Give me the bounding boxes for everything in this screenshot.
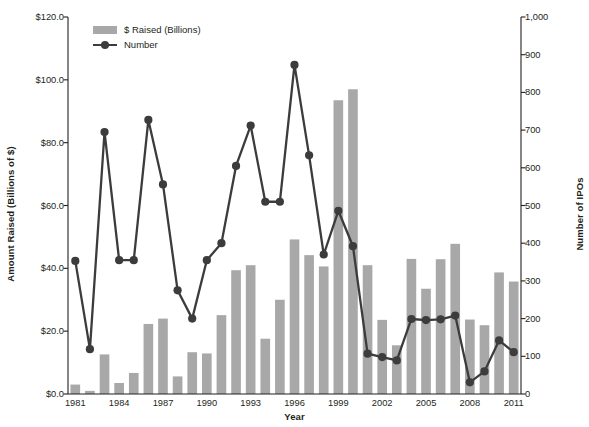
line-point-2008 — [466, 378, 474, 386]
line-point-1993 — [247, 121, 255, 129]
bar-1994 — [260, 339, 270, 394]
line-point-2002 — [378, 353, 386, 361]
bar-1992 — [231, 270, 241, 394]
bar-1996 — [290, 239, 300, 394]
line-point-2004 — [407, 315, 415, 323]
line-point-2005 — [422, 316, 430, 324]
line-point-1997 — [305, 151, 313, 159]
bar-1989 — [187, 352, 197, 394]
line-point-1987 — [159, 180, 167, 188]
line-point-2010 — [495, 336, 503, 344]
line-point-1983 — [100, 128, 108, 136]
line-point-1992 — [232, 162, 240, 170]
line-point-1986 — [144, 116, 152, 124]
line-point-1984 — [115, 256, 123, 264]
bar-1998 — [319, 266, 329, 394]
line-point-2001 — [363, 350, 371, 358]
line-point-2009 — [480, 367, 488, 375]
bar-1990 — [202, 353, 212, 394]
line-point-1995 — [276, 198, 284, 206]
bar-2009 — [480, 325, 490, 394]
bar-1999 — [334, 100, 344, 394]
bar-2011 — [509, 282, 519, 394]
line-point-2000 — [349, 242, 357, 250]
bar-2005 — [421, 289, 431, 394]
bar-1988 — [173, 376, 183, 394]
bar-2000 — [348, 89, 358, 394]
line-point-1994 — [261, 198, 269, 206]
line-point-2007 — [451, 311, 459, 319]
plot-area — [0, 0, 589, 427]
line-point-1989 — [188, 315, 196, 323]
bar-1997 — [304, 255, 314, 394]
line-point-1985 — [130, 256, 138, 264]
line-point-1981 — [71, 257, 79, 265]
bar-1986 — [144, 324, 154, 394]
line-point-1991 — [217, 239, 225, 247]
line-point-2003 — [393, 356, 401, 364]
line-point-1988 — [174, 286, 182, 294]
line-point-2011 — [510, 348, 518, 356]
line-point-1999 — [334, 207, 342, 215]
line-point-1982 — [86, 345, 94, 353]
bar-1995 — [275, 300, 285, 394]
bar-1981 — [70, 385, 80, 394]
bar-1983 — [100, 354, 110, 394]
bar-2010 — [494, 272, 504, 394]
bar-1985 — [129, 373, 139, 394]
line-point-1998 — [320, 250, 328, 258]
line-point-1996 — [290, 61, 298, 69]
bar-1987 — [158, 319, 168, 394]
chart-container: Amount Raised (Billions of $) Number of … — [0, 0, 589, 427]
line-point-2006 — [437, 315, 445, 323]
bar-2006 — [436, 259, 446, 394]
line-point-1990 — [203, 256, 211, 264]
bar-1984 — [114, 383, 124, 394]
bar-1993 — [246, 265, 256, 394]
bar-1991 — [217, 315, 227, 394]
